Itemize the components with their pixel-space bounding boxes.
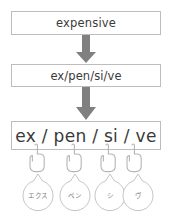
arrow-down-icon-1 [73, 35, 99, 64]
word-box-original: expensive [11, 11, 161, 35]
katakana-bubble-label-2: ペン [56, 172, 94, 214]
arrow-down-icon-2 [73, 87, 99, 121]
katakana-bubble-label-1: エクス [19, 172, 57, 214]
pointing-hand-icon-2 [64, 143, 86, 173]
pointing-hand-icon-3 [98, 143, 120, 173]
syllable-breakdown-diagram: expensive ex/pen/si/ve ex / pen / si / v… [0, 0, 172, 216]
katakana-bubble-1: エクス [19, 172, 57, 214]
pointing-hand-icon-1 [27, 143, 49, 173]
word-box-segmented: ex/pen/si/ve [11, 64, 161, 87]
pointing-hands-row [11, 143, 161, 173]
katakana-bubbles-row: エクス ペン シ ヴ [11, 172, 161, 214]
pointing-hand-icon-4 [124, 143, 146, 173]
katakana-bubble-2: ペン [56, 172, 94, 214]
katakana-bubble-4: ヴ [119, 172, 157, 214]
katakana-bubble-label-4: ヴ [119, 172, 157, 214]
